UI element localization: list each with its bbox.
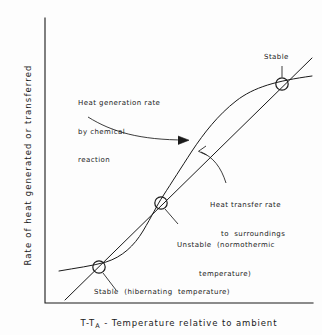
arrowhead-to-generation-curve — [178, 136, 189, 145]
x-axis-title-subscript: A — [95, 322, 100, 330]
label-stable-lower: Stable (hibernating temperature) — [94, 288, 230, 298]
label-stable-upper: Stable — [264, 53, 289, 63]
intersection-marker-stable-upper — [276, 78, 288, 90]
x-axis-title-suffix: - Temperature relative to ambient — [101, 318, 278, 328]
label-unstable-line1: Unstable (normothermic — [177, 241, 275, 251]
label-unstable-line2: temperature) — [177, 270, 275, 280]
arrow-to-transfer-line — [201, 152, 226, 183]
annotation-heat-transfer-line1: Heat transfer rate — [210, 201, 285, 211]
thermal-stability-diagram: Heat generation rate by chemical reactio… — [0, 0, 322, 335]
label-unstable: Unstable (normothermic temperature) — [177, 222, 275, 298]
y-axis-title: Rate of heat generated or transferred — [23, 35, 33, 295]
x-axis-title-prefix: T-T — [81, 318, 96, 328]
x-axis-title: T-TA - Temperature relative to ambient — [45, 318, 313, 328]
annotation-heat-generation-line3: reaction — [78, 156, 160, 166]
annotation-heat-generation-line2: by chemical — [78, 128, 160, 138]
annotation-heat-generation: Heat generation rate by chemical reactio… — [78, 80, 160, 185]
annotation-heat-generation-line1: Heat generation rate — [78, 99, 160, 109]
